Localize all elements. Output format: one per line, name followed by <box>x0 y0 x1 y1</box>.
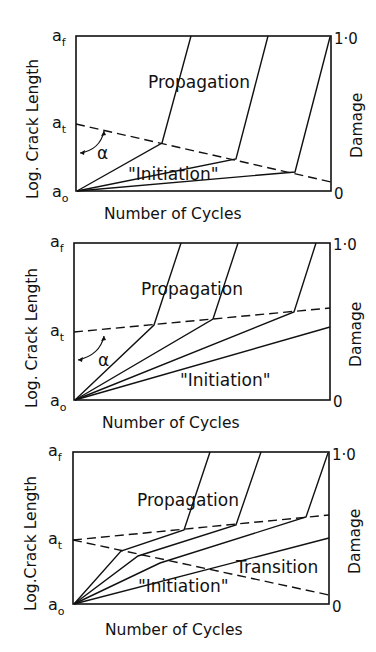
crack-growth-diagram: α Propagation "Initiation" af at ao 1·0 … <box>0 0 376 652</box>
panel-3-damage-0-label: 0 <box>332 598 342 616</box>
panel-2-initiation-label: "Initiation" <box>180 370 271 390</box>
panel-3-transition-label: Transition <box>235 557 318 577</box>
panel-1-initiation-label: "Initiation" <box>128 164 219 184</box>
panel-3-damage-axis-label: Damage <box>346 509 364 574</box>
panel-1-damage-axis-label: Damage <box>348 93 366 158</box>
panel-3-x-axis-label: Number of Cycles <box>105 621 243 639</box>
panel-3-at-label: at <box>48 529 63 552</box>
panel-2-damage-1-label: 1·0 <box>333 236 357 254</box>
panel-2-curve-1 <box>75 243 181 400</box>
panel-2: α Propagation "Initiation" af at ao 1·0 … <box>23 232 365 432</box>
panel-3-damage-1-label: 1·0 <box>332 446 356 464</box>
panel-2-transition-line <box>74 308 330 332</box>
panel-3-ao-label: ao <box>48 595 65 618</box>
panel-3: Propagation Transition "Initiation" af a… <box>22 441 364 639</box>
panel-2-at-label: at <box>50 321 65 344</box>
panel-2-alpha-label: α <box>98 350 109 370</box>
panel-3-initiation-label: "Initiation" <box>138 576 229 596</box>
panel-1: α Propagation "Initiation" af at ao 1·0 … <box>24 26 366 223</box>
panel-1-at-label: at <box>52 113 67 136</box>
panel-1-damage-0-label: 0 <box>334 185 344 203</box>
panel-2-damage-0-label: 0 <box>333 393 343 411</box>
panel-1-ao-label: ao <box>52 182 69 205</box>
panel-2-propagation-label: Propagation <box>141 279 243 299</box>
panel-2-ao-label: ao <box>50 391 67 414</box>
panel-2-damage-axis-label: Damage <box>347 302 365 367</box>
panel-3-propagation-label: Propagation <box>137 490 239 510</box>
panel-3-y-axis-label: Log.Crack Length <box>22 476 40 611</box>
panel-1-y-axis-label: Log. Crack Length <box>24 59 42 199</box>
panel-2-af-label: af <box>50 232 65 255</box>
panel-1-x-axis-label: Number of Cycles <box>104 205 242 223</box>
panel-2-y-axis-label: Log. Crack Length <box>23 268 41 408</box>
panel-1-propagation-label: Propagation <box>148 72 250 92</box>
panel-1-af-label: af <box>52 26 67 49</box>
panel-2-x-axis-label: Number of Cycles <box>102 414 240 432</box>
panel-1-damage-1-label: 1·0 <box>334 30 358 48</box>
panel-1-alpha-label: α <box>97 143 108 163</box>
panel-3-af-label: af <box>48 441 63 464</box>
